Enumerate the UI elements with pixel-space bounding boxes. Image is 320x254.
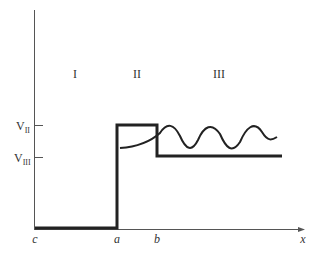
- x-label-a: a: [114, 232, 120, 246]
- axis-label-x: x: [299, 232, 306, 246]
- x-label-c: c: [32, 232, 38, 246]
- level-label-v3: VIII: [14, 151, 31, 167]
- region-label-2: II: [133, 67, 141, 81]
- potential-diagram: I II III VII VIII c a b x: [0, 0, 320, 254]
- potential-profile: [35, 125, 282, 228]
- region-label-1: I: [73, 67, 77, 81]
- region-label-3: III: [213, 67, 225, 81]
- x-label-b: b: [154, 232, 160, 246]
- diagram-canvas: I II III VII VIII c a b x: [0, 0, 320, 254]
- wavefunction-curve: [120, 126, 277, 149]
- level-label-v2: VII: [16, 119, 30, 135]
